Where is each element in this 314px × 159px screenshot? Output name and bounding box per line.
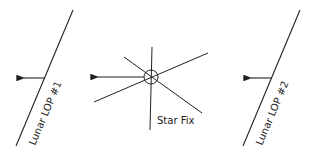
star-line-vertical bbox=[150, 47, 152, 130]
star-fix-label: Star Fix bbox=[157, 115, 194, 126]
lunar-lop-2: Lunar LOP #2 bbox=[243, 10, 300, 147]
lop-2-label: Lunar LOP #2 bbox=[254, 79, 291, 146]
diagram-canvas: Lunar LOP #1 Star Fix Lunar LOP #2 bbox=[0, 0, 314, 159]
star-line-falling bbox=[124, 57, 202, 113]
lunar-lop-1: Lunar LOP #1 bbox=[16, 10, 73, 147]
diagram-svg: Lunar LOP #1 Star Fix Lunar LOP #2 bbox=[0, 0, 314, 159]
lop-1-label: Lunar LOP #1 bbox=[27, 79, 64, 146]
star-fix: Star Fix bbox=[94, 47, 208, 130]
